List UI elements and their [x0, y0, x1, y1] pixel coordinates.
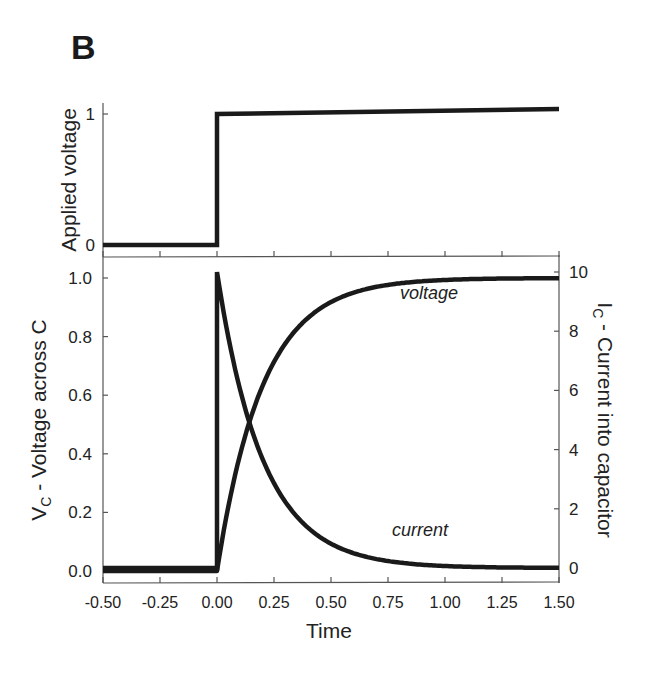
current-curve — [103, 272, 559, 568]
x-tick-label: 1.50 — [543, 594, 574, 611]
left-y-tick-label: 0.8 — [68, 328, 92, 347]
x-tick-label: 0.50 — [315, 594, 346, 611]
x-tick-label: 0.25 — [258, 594, 289, 611]
left-y-tick-label: 1.0 — [68, 269, 92, 288]
right-y-tick-label: 0 — [569, 559, 578, 578]
top-panel-axes: 01 — [86, 103, 559, 257]
left-y-tick-label: 0.4 — [68, 445, 92, 464]
top-y-axis-label: Applied voltage — [57, 108, 80, 252]
applied-voltage-line — [103, 109, 559, 245]
annotation-voltage: voltage — [400, 283, 458, 303]
right-y-tick-label: 2 — [569, 500, 578, 519]
bottom-panel-axes: -0.50-0.250.000.250.500.751.001.251.500.… — [68, 255, 588, 611]
axis-labels: Applied voltageTimeVC - Voltage across C… — [27, 108, 617, 642]
x-tick-label: 1.00 — [429, 594, 460, 611]
figure-canvas: 01 -0.50-0.250.000.250.500.751.001.251.5… — [0, 0, 647, 675]
x-axis-label: Time — [306, 619, 352, 642]
x-tick-label: -0.50 — [85, 594, 122, 611]
x-tick-label: -0.25 — [142, 594, 179, 611]
right-y-tick-label: 6 — [569, 381, 578, 400]
right-y-axis-label: IC - Current into capacitor — [590, 302, 617, 537]
annotation-current: current — [392, 520, 449, 540]
right-y-tick-label: 8 — [569, 322, 578, 341]
voltage-curve — [103, 278, 559, 571]
right-y-tick-label: 4 — [569, 441, 578, 460]
x-tick-label: 0.75 — [372, 594, 403, 611]
top-y-tick-label: 0 — [86, 236, 95, 255]
x-tick-label: 0.00 — [201, 594, 232, 611]
left-y-tick-label: 0.2 — [68, 503, 92, 522]
top-y-tick-label: 1 — [86, 105, 95, 124]
top-panel-plot — [103, 109, 559, 245]
left-y-tick-label: 0.6 — [68, 386, 92, 405]
bottom-panel-plot: voltagecurrent — [103, 272, 559, 571]
left-y-axis-label: VC - Voltage across C — [27, 319, 54, 521]
left-y-tick-label: 0.0 — [68, 562, 92, 581]
x-tick-label: 1.25 — [486, 594, 517, 611]
right-y-tick-label: 10 — [569, 263, 588, 282]
